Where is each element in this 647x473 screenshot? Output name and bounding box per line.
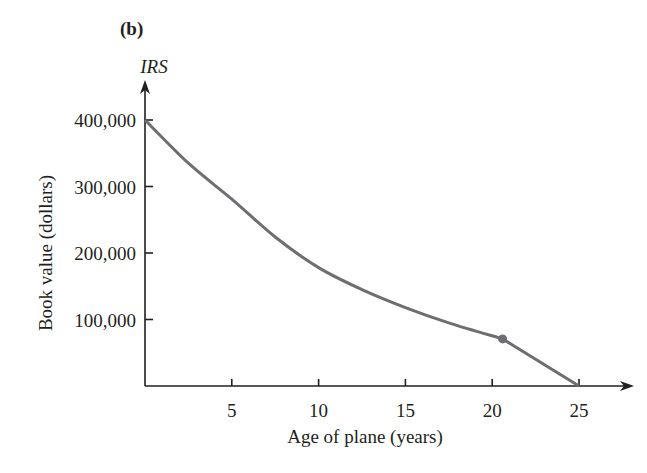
x-tick-label: 20 bbox=[483, 400, 502, 421]
x-tick-label: 25 bbox=[570, 400, 589, 421]
y-tick-label: 400,000 bbox=[74, 110, 136, 131]
x-tick-label: 10 bbox=[309, 400, 328, 421]
x-tick-label: 15 bbox=[396, 400, 415, 421]
axes bbox=[140, 80, 634, 391]
y-axis-title: Book value (dollars) bbox=[35, 175, 57, 331]
y-tick-label: 200,000 bbox=[74, 243, 136, 264]
tick-labels: 510152025100,000200,000300,000400,000 bbox=[74, 110, 588, 421]
y-tick-label: 300,000 bbox=[74, 177, 136, 198]
book-value-chart: (b) 510152025100,000200,000300,000400,00… bbox=[0, 0, 647, 473]
panel-label: (b) bbox=[120, 18, 143, 40]
y-tick-label: 100,000 bbox=[74, 310, 136, 331]
irs-depreciation-line bbox=[145, 120, 579, 386]
y-axis-series-label: IRS bbox=[139, 56, 168, 77]
switch-point-marker bbox=[498, 334, 507, 343]
x-tick-label: 5 bbox=[227, 400, 237, 421]
x-axis-title: Age of plane (years) bbox=[287, 426, 443, 448]
